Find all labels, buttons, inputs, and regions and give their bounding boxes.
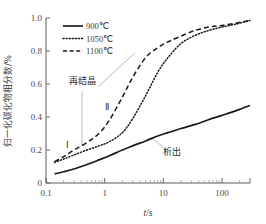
x-tick-label: 1 [102, 188, 107, 198]
chart-figure: 00.20.40.60.81.0 0.1110100 归一化碳化物相分数/% t… [0, 0, 266, 224]
annotation-stage-one: Ⅰ [66, 140, 69, 150]
series-curve-1100c [55, 20, 250, 161]
legend-label: 900℃ [86, 21, 109, 31]
x-tick-label: 100 [215, 188, 229, 198]
annotation-precipitation: 析出 [163, 146, 181, 157]
axes [46, 18, 250, 183]
y-axis-title-label: 归一化碳化物相分数/% [2, 55, 13, 147]
chart-legend: 900℃1050℃1100℃ [63, 21, 113, 56]
y-axis-title: 归一化碳化物相分数/% [2, 55, 13, 147]
x-tick-label: 10 [159, 188, 169, 198]
annotation-leaders [82, 53, 166, 150]
carbide-fraction-log-chart: 00.20.40.60.81.0 0.1110100 归一化碳化物相分数/% t… [0, 0, 266, 224]
y-tick-label: 0.8 [31, 46, 43, 56]
legend-label: 1050℃ [86, 34, 113, 44]
y-tick-label: 1.0 [31, 13, 43, 23]
y-axis-ticks: 00.20.40.60.81.0 [31, 13, 50, 188]
x-axis-title: t/s t/s [144, 208, 153, 218]
x-tick-label: 0.1 [40, 188, 51, 198]
series-curve-900c [55, 105, 250, 173]
annotation-stage-two: Ⅱ [105, 102, 109, 112]
x-axis-ticks: 0.1110100 [40, 178, 250, 198]
y-tick-label: 0 [38, 178, 43, 188]
legend-label: 1100℃ [86, 46, 113, 56]
series-curve-1050c [55, 20, 250, 162]
y-tick-label: 0.4 [31, 112, 43, 122]
data-curves [55, 20, 250, 173]
y-tick-label: 0.6 [31, 79, 43, 89]
y-tick-label: 0.2 [31, 145, 42, 155]
x-axis-title-label: t/s [144, 208, 153, 218]
annotation-recrystallization: 再结晶 [69, 75, 96, 86]
